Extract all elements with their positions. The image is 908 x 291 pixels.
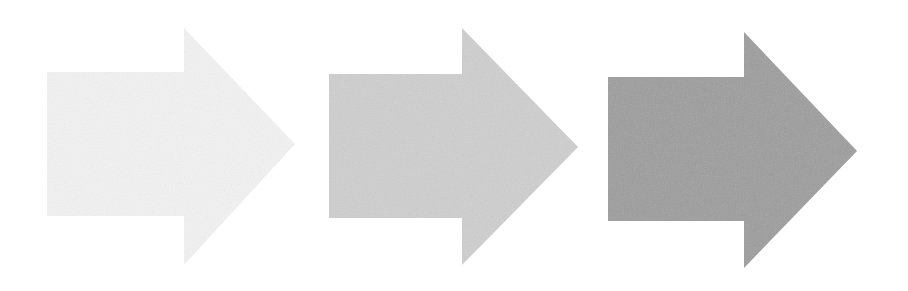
right-arrow-icon-step-3 [608, 32, 857, 268]
right-arrow-icon-step-2 [329, 28, 578, 265]
right-arrow-icon-step-1 [47, 28, 295, 265]
arrow-diagram-svg [0, 0, 908, 291]
process-arrow-diagram [0, 0, 908, 291]
